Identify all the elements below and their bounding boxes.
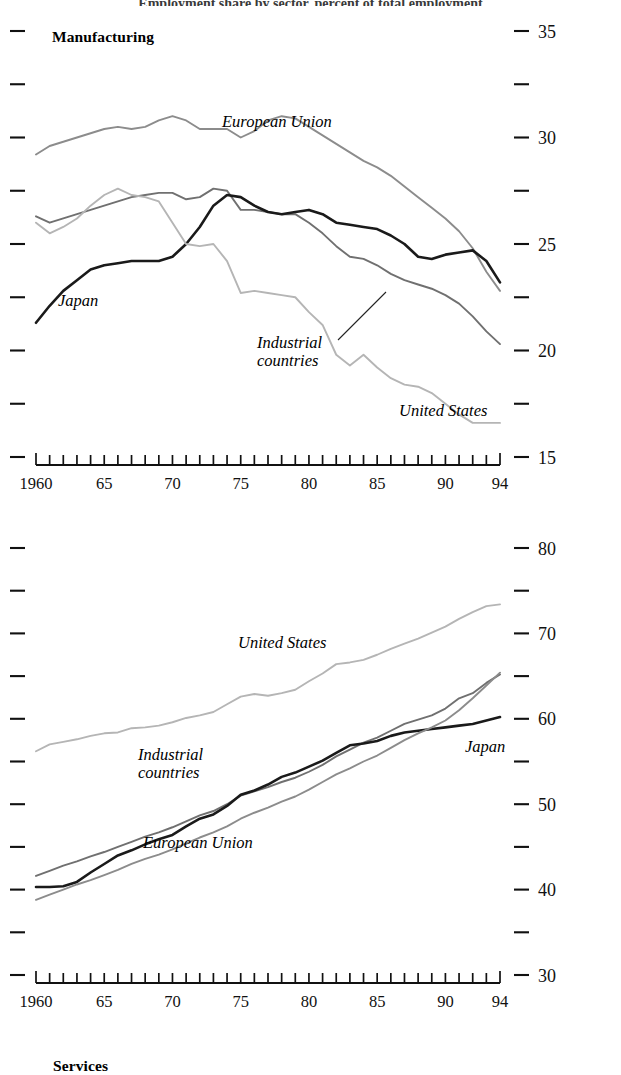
- panel-title-manufacturing: Manufacturing: [52, 28, 154, 46]
- y-axis-label: 25: [538, 235, 556, 255]
- y-axis-label: 30: [538, 966, 556, 986]
- y-axis-label: 35: [538, 22, 556, 42]
- series-annotation: United States: [238, 633, 326, 652]
- series-line: [36, 189, 500, 423]
- y-axis-label: 80: [538, 539, 556, 559]
- x-axis-label: 80: [301, 992, 318, 1011]
- y-axis-label: 20: [538, 341, 556, 361]
- series-annotation: Industrialcountries: [137, 745, 204, 782]
- x-axis-label: 65: [96, 992, 113, 1011]
- series-japan: [36, 717, 500, 887]
- x-axis-label: 70: [164, 992, 181, 1011]
- annotation-leader-line: [338, 292, 386, 340]
- series-annotation-line: countries: [138, 763, 199, 782]
- series-japan: [36, 195, 500, 323]
- x-axis-label: 94: [492, 992, 509, 1011]
- y-axis-label: 40: [538, 880, 556, 900]
- series-annotation-line: Industrial: [137, 745, 204, 764]
- x-axis-label: 90: [437, 474, 454, 493]
- x-axis-label: 75: [232, 474, 249, 493]
- y-axis-label: 70: [538, 624, 556, 644]
- chart-panel-services: 304050607080196065707580859094United Sta…: [0, 515, 621, 1047]
- series-annotation: Japan: [465, 737, 505, 756]
- x-axis-label: 1960: [20, 474, 53, 493]
- x-axis-label: 94: [492, 474, 509, 493]
- x-axis-label: 75: [232, 992, 249, 1011]
- series-annotation: Japan: [58, 291, 98, 310]
- y-axis-label: 15: [538, 448, 556, 468]
- y-axis-label: 30: [538, 128, 556, 148]
- series-united-states: [36, 189, 500, 423]
- y-axis-label: 60: [538, 709, 556, 729]
- series-annotation: European Union: [142, 833, 253, 852]
- x-axis-label: 1960: [20, 992, 53, 1011]
- chart-panel-manufacturing: 1520253035196065707580859094European Uni…: [0, 0, 621, 500]
- series-annotation: United States: [399, 401, 487, 420]
- services-plot: 304050607080196065707580859094United Sta…: [0, 515, 621, 1047]
- y-axis-label: 50: [538, 795, 556, 815]
- panel-title-services: Services: [53, 1057, 108, 1075]
- series-line: [36, 674, 500, 876]
- series-line: [36, 195, 500, 323]
- series-annotation: Industrialcountries: [256, 333, 323, 370]
- series-line: [36, 717, 500, 887]
- series-annotation-line: Industrial: [256, 333, 323, 352]
- series-annotation: European Union: [221, 112, 332, 131]
- series-industrial-countries: [36, 674, 500, 876]
- x-axis-label: 70: [164, 474, 181, 493]
- x-axis-label: 85: [369, 992, 386, 1011]
- manufacturing-plot: 1520253035196065707580859094European Uni…: [0, 0, 621, 500]
- x-axis-label: 85: [369, 474, 386, 493]
- x-axis-label: 65: [96, 474, 113, 493]
- series-annotation-line: countries: [257, 351, 318, 370]
- x-axis-label: 90: [437, 992, 454, 1011]
- x-axis-label: 80: [301, 474, 318, 493]
